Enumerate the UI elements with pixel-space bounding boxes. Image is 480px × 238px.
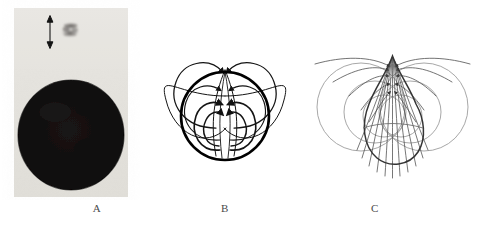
fieldline-inner-right xyxy=(229,103,256,151)
caption-fragment xyxy=(0,229,480,237)
figure-root: A B C xyxy=(0,0,480,238)
panel-c xyxy=(305,0,480,200)
dark-disc-grain xyxy=(18,80,124,190)
panel-a xyxy=(0,0,150,200)
cusp-arc-left-1 xyxy=(315,58,389,66)
cusp-arc-right-2 xyxy=(397,68,452,82)
cusp-arc-left-2 xyxy=(333,68,388,82)
panel-label-a: A xyxy=(77,202,117,214)
cusp-arc-right-1 xyxy=(396,58,470,66)
neck-fieldline-group xyxy=(357,58,428,178)
boundary-circle xyxy=(181,72,269,160)
panel-label-c: C xyxy=(355,202,395,214)
panel-b xyxy=(150,0,305,200)
panel-label-b: B xyxy=(205,202,245,214)
panel-a-image xyxy=(0,0,150,200)
panel-c-diagram xyxy=(305,0,480,200)
panel-label-row: A B C xyxy=(0,202,480,224)
panel-b-diagram xyxy=(150,0,305,200)
fieldline-internal-left-2 xyxy=(220,72,225,158)
fieldline-internal-right-2 xyxy=(225,72,230,158)
fieldline-inner-left xyxy=(194,103,221,151)
blurred-spot xyxy=(62,23,79,38)
